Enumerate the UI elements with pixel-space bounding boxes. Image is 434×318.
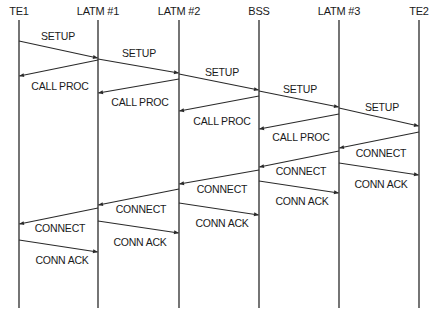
message-label-call-proc: CALL PROC <box>272 131 329 143</box>
arrow-conn-ack-bss-to-latm3 <box>259 181 339 193</box>
arrow-call-proc-bss-to-latm2 <box>180 96 260 111</box>
message-label-setup: SETUP <box>205 66 239 78</box>
message-label-call-proc: CALL PROC <box>193 115 250 127</box>
entity-label-latm1: LATM #1 <box>77 5 119 17</box>
arrow-call-proc-latm3-to-bss <box>260 114 340 129</box>
arrow-conn-ack-te1-to-latm1 <box>19 240 98 252</box>
arrow-setup-latm1-to-latm2 <box>98 59 179 73</box>
message-label-connect: CONNECT <box>197 183 248 195</box>
entity-label-latm2: LATM #2 <box>158 5 200 17</box>
message-label-conn-ack: CONN ACK <box>195 217 248 229</box>
message-label-connect: CONNECT <box>276 165 327 177</box>
message-label-conn-ack: CONN ACK <box>275 195 328 207</box>
arrow-conn-ack-latm1-to-latm2 <box>98 221 179 233</box>
message-label-connect: CONNECT <box>116 203 167 215</box>
message-label-call-proc: CALL PROC <box>31 80 88 92</box>
message-label-call-proc: CALL PROC <box>111 96 168 108</box>
message-label-conn-ack: CONN ACK <box>35 254 88 266</box>
arrow-connect-bss-to-latm2 <box>180 170 260 184</box>
arrow-call-proc-latm2-to-latm1 <box>99 79 180 93</box>
arrow-connect-te2-to-latm3 <box>340 132 420 148</box>
arrow-setup-te1-to-latm1 <box>19 41 98 58</box>
arrow-conn-ack-latm2-to-bss <box>179 203 259 215</box>
message-label-conn-ack: CONN ACK <box>354 178 407 190</box>
message-label-connect: CONNECT <box>356 147 407 159</box>
message-label-setup: SETUP <box>41 30 75 42</box>
message-label-setup: SETUP <box>365 101 399 113</box>
entity-label-te2: TE2 <box>409 5 429 17</box>
entity-label-latm3: LATM #3 <box>318 5 360 17</box>
arrow-call-proc-latm1-to-te1 <box>20 60 99 76</box>
sequence-diagram <box>0 0 434 318</box>
arrow-conn-ack-latm3-to-te2 <box>339 163 419 175</box>
message-label-setup: SETUP <box>122 47 156 59</box>
message-label-setup: SETUP <box>283 83 317 95</box>
entity-label-bss: BSS <box>248 5 269 17</box>
message-label-conn-ack: CONN ACK <box>113 236 166 248</box>
entity-label-te1: TE1 <box>9 5 29 17</box>
message-label-connect: CONNECT <box>35 222 86 234</box>
